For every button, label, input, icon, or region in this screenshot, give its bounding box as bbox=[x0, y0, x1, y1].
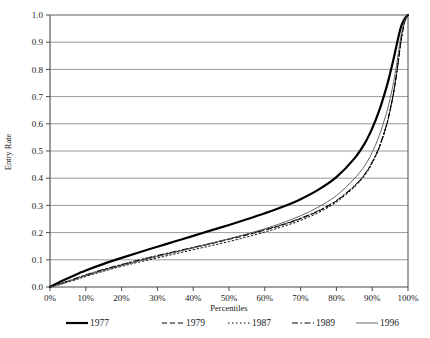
legend-label-1996: 1996 bbox=[380, 318, 399, 328]
legend-label-1979: 1979 bbox=[186, 318, 205, 328]
x-tick-label-6: 60% bbox=[257, 293, 274, 303]
x-tick-label-9: 90% bbox=[364, 293, 381, 303]
y-tick-label-8: 0.8 bbox=[32, 65, 44, 75]
y-tick-label-3: 0.3 bbox=[32, 201, 44, 211]
y-tick-label-10: 1.0 bbox=[32, 10, 44, 20]
x-tick-label-4: 40% bbox=[185, 293, 202, 303]
y-tick-label-6: 0.6 bbox=[32, 119, 44, 129]
legend-label-1987: 1987 bbox=[252, 318, 271, 328]
x-tick-label-8: 80% bbox=[328, 293, 345, 303]
y-tick-label-0: 0.0 bbox=[32, 282, 44, 292]
x-tick-label-3: 30% bbox=[149, 293, 166, 303]
y-tick-label-7: 0.7 bbox=[32, 92, 44, 102]
y-tick-label-5: 0.5 bbox=[32, 146, 44, 156]
y-tick-label-1: 0.1 bbox=[32, 255, 43, 265]
legend-label-1989: 1989 bbox=[316, 318, 335, 328]
x-tick-label-2: 20% bbox=[113, 293, 130, 303]
y-tick-label-9: 0.9 bbox=[32, 37, 44, 47]
x-tick-label-7: 70% bbox=[292, 293, 309, 303]
y-tick-label-4: 0.4 bbox=[32, 173, 44, 183]
legend-label-1977: 1977 bbox=[90, 318, 109, 328]
chart-figure: 0.00.10.20.30.40.50.60.70.80.91.0 0%10%2… bbox=[0, 0, 430, 338]
x-tick-label-1: 10% bbox=[78, 293, 95, 303]
x-axis-title: Percentiles bbox=[210, 303, 247, 313]
chart-svg: 0.00.10.20.30.40.50.60.70.80.91.0 0%10%2… bbox=[0, 0, 430, 338]
y-tick-label-2: 0.2 bbox=[32, 228, 43, 238]
x-tick-label-10: 100% bbox=[398, 293, 420, 303]
x-tick-label-0: 0% bbox=[44, 293, 57, 303]
y-axis-title: Entry Rate bbox=[3, 133, 13, 170]
x-tick-label-5: 50% bbox=[221, 293, 238, 303]
